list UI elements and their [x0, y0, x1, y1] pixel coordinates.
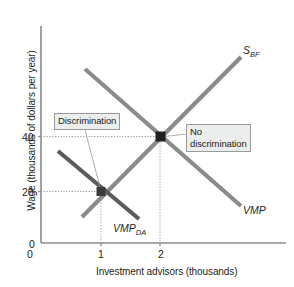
curve-label-supply-base: S [243, 44, 250, 56]
vmp-da-curve [58, 151, 139, 219]
x-axis-title: Investment advisors (thousands) [96, 266, 237, 277]
curve-label-vmp: VMP [243, 204, 266, 216]
marker-discrimination [97, 187, 106, 196]
marker-no-discrimination [156, 132, 166, 142]
x-axis-tick-label-1: 1 [98, 248, 104, 260]
curve-label-vmp-da-sub: DA [136, 228, 146, 237]
x-axis-tick-label-0: 0 [27, 248, 33, 260]
chart-container: Wage (thousands of dollars per year) Inv… [0, 0, 294, 287]
y-axis-tick-label-20: 20 [22, 186, 34, 198]
curve-label-vmp-base: VMP [243, 204, 266, 216]
curve-label-vmp-da: VMPDA [113, 222, 146, 237]
callout-discrimination: Discrimination [54, 113, 120, 130]
curve-label-supply-sub: BF [250, 50, 260, 59]
x-axis-tick-label-2: 2 [158, 248, 164, 260]
curve-label-supply-sbf: SBF [243, 44, 260, 59]
y-axis-tick-label-40: 40 [22, 131, 34, 143]
curve-label-vmp-da-base: VMP [113, 222, 136, 234]
callout-no-discrimination: No discrimination [186, 124, 251, 152]
